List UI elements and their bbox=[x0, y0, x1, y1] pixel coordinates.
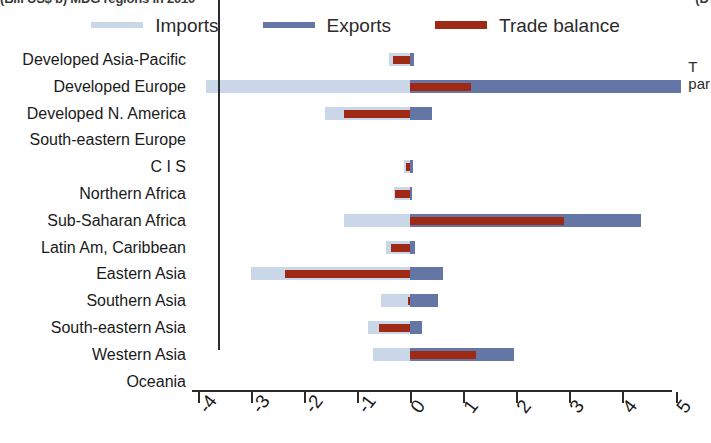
x-axis-tick-label: 1 bbox=[459, 396, 483, 418]
annotation-line: T bbox=[688, 58, 710, 75]
x-axis-tick-label: 0 bbox=[406, 396, 430, 418]
trade-balance-bar bbox=[379, 324, 410, 332]
trade-balance-bar bbox=[408, 297, 410, 305]
trade-balance-bar bbox=[393, 56, 410, 64]
imports-bar bbox=[381, 294, 410, 307]
category-label: C I S bbox=[0, 159, 186, 175]
legend-item-exports: Exports bbox=[263, 16, 391, 35]
category-label: Developed N. America bbox=[0, 106, 186, 122]
exports-bar bbox=[410, 107, 432, 120]
x-axis-tick-label: 2 bbox=[512, 396, 536, 418]
trade-balance-bar bbox=[410, 217, 564, 225]
imports-swatch-icon bbox=[91, 22, 143, 28]
category-label: Southern Asia bbox=[0, 293, 186, 309]
trade-balance-bar bbox=[344, 110, 410, 118]
annotation-line: par bbox=[688, 75, 710, 92]
exports-bar bbox=[410, 321, 422, 334]
imports-bar bbox=[344, 214, 410, 227]
trade-balance-bar bbox=[391, 244, 410, 252]
legend-item-imports: Imports bbox=[91, 16, 218, 35]
legend-item-trade-balance: Trade balance bbox=[435, 16, 620, 35]
legend-label-trade-balance: Trade balance bbox=[499, 16, 620, 35]
category-label: Eastern Asia bbox=[0, 266, 186, 282]
category-label: Latin Am, Caribbean bbox=[0, 240, 186, 256]
category-label: South-eastern Asia bbox=[0, 320, 186, 336]
trade-balance-bar bbox=[285, 270, 410, 278]
x-axis-tick-label: 4 bbox=[618, 396, 642, 418]
exports-bar bbox=[410, 187, 412, 200]
legend-label-imports: Imports bbox=[155, 16, 218, 35]
chart-title-clipped: (Bill US$ b) MDG regions in 2010 bbox=[0, 0, 195, 6]
zero-axis-line bbox=[218, 0, 220, 350]
imports-bar bbox=[373, 348, 410, 361]
chart-legend: Imports Exports Trade balance bbox=[0, 12, 711, 38]
category-label: South-eastern Europe bbox=[0, 132, 186, 148]
exports-swatch-icon bbox=[263, 22, 315, 28]
trade-balance-swatch-icon bbox=[435, 21, 487, 29]
trade-balance-bar bbox=[406, 163, 410, 171]
exports-bar bbox=[410, 160, 413, 173]
exports-bar bbox=[410, 267, 443, 280]
trade-balance-bar bbox=[410, 351, 476, 359]
exports-bar bbox=[410, 294, 438, 307]
right-clipped-annotation: Tpar bbox=[688, 58, 710, 93]
exports-bar bbox=[410, 241, 415, 254]
category-label: Northern Africa bbox=[0, 186, 186, 202]
x-axis-tick-label: 5 bbox=[672, 396, 696, 418]
x-axis-tick-label: 3 bbox=[565, 396, 589, 418]
imports-bar bbox=[206, 80, 410, 93]
trade-balance-bar bbox=[395, 190, 410, 198]
trade-balance-bar bbox=[410, 83, 471, 91]
legend-label-exports: Exports bbox=[327, 16, 391, 35]
category-label: Developed Asia-Pacific bbox=[0, 52, 186, 68]
category-label: Oceania bbox=[0, 374, 186, 390]
category-label: Sub-Saharan Africa bbox=[0, 213, 186, 229]
category-label: Developed Europe bbox=[0, 79, 186, 95]
chart-title-right-clipped: (D bbox=[695, 0, 709, 6]
exports-bar bbox=[410, 53, 414, 66]
category-label: Western Asia bbox=[0, 347, 186, 363]
